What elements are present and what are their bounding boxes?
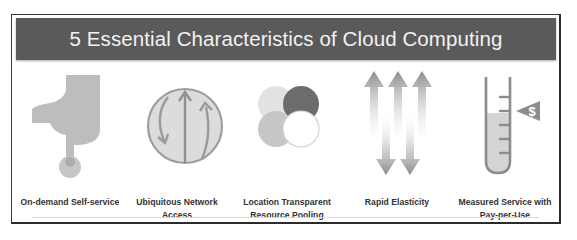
characteristic-rapid-elasticity: Rapid Elasticity bbox=[342, 67, 452, 217]
globe-arrows-icon bbox=[140, 81, 230, 171]
label-on-demand: On-demand Self-service bbox=[14, 195, 126, 208]
characteristic-network-access: Ubiquitous Network Access bbox=[122, 67, 232, 217]
dollar-badge: $ bbox=[528, 104, 536, 119]
characteristic-measured-service: $ Measured Service with Pay-per-Use bbox=[452, 67, 562, 217]
page-title: 5 Essential Characteristics of Cloud Com… bbox=[69, 27, 502, 51]
up-down-arrows-icon bbox=[360, 65, 440, 185]
overlapping-circles-icon bbox=[244, 77, 334, 157]
label-rapid-elasticity: Rapid Elasticity bbox=[341, 195, 453, 208]
title-banner: 5 Essential Characteristics of Cloud Com… bbox=[16, 18, 556, 60]
characteristic-resource-pooling: Location Transparent Resource Pooling bbox=[232, 67, 342, 217]
test-tube-dollar-icon: $ bbox=[470, 71, 550, 181]
diagram-frame: 5 Essential Characteristics of Cloud Com… bbox=[11, 14, 561, 224]
hand-pointer-icon bbox=[24, 71, 114, 181]
characteristic-on-demand: On-demand Self-service bbox=[12, 67, 122, 217]
bottom-divider bbox=[32, 217, 539, 218]
